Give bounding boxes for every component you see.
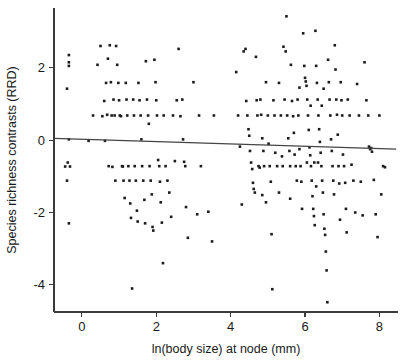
data-point — [350, 163, 353, 166]
x-tick-label: 4 — [227, 319, 234, 334]
y-axis-ticks: 20-2-4 — [33, 60, 54, 292]
data-point — [273, 114, 276, 117]
data-point — [120, 115, 123, 118]
data-point — [179, 115, 182, 118]
data-point — [145, 60, 148, 63]
data-point — [287, 137, 290, 140]
regression-line — [54, 138, 396, 149]
data-point — [96, 64, 99, 67]
data-point — [146, 98, 149, 101]
data-point — [317, 114, 320, 117]
y-tick-label: -4 — [33, 277, 45, 292]
data-point — [111, 166, 114, 169]
data-point — [117, 82, 120, 85]
x-tick-label: 6 — [301, 319, 308, 334]
data-point — [331, 150, 334, 153]
data-point — [278, 82, 281, 85]
data-point — [159, 180, 162, 183]
data-point — [114, 179, 117, 182]
data-point — [259, 98, 262, 101]
data-point — [211, 240, 214, 243]
data-point — [263, 165, 266, 168]
data-point — [261, 194, 264, 197]
data-point — [66, 161, 69, 164]
data-point — [267, 114, 270, 117]
data-point — [112, 98, 115, 101]
data-point — [311, 195, 314, 198]
data-point — [285, 15, 288, 18]
data-point — [175, 99, 178, 102]
x-axis-ticks: 02468 — [78, 312, 383, 334]
data-point — [213, 114, 216, 117]
data-point — [302, 32, 305, 35]
data-point — [298, 86, 301, 89]
data-point — [235, 71, 238, 74]
data-point — [358, 114, 361, 117]
data-point — [336, 113, 339, 116]
data-point — [332, 179, 335, 182]
data-point — [315, 185, 318, 188]
data-point — [272, 99, 275, 102]
data-point — [113, 114, 116, 117]
y-axis-label: Species richness contrasts (RRD) — [5, 66, 19, 254]
data-point — [320, 104, 323, 107]
data-point — [183, 161, 186, 164]
data-point — [327, 58, 330, 61]
data-point — [325, 250, 328, 253]
data-point — [255, 99, 258, 102]
data-point — [246, 114, 249, 117]
data-point — [172, 114, 175, 117]
data-point — [66, 87, 69, 90]
data-point — [242, 50, 245, 53]
data-point — [182, 138, 185, 141]
data-point — [281, 165, 284, 168]
data-point — [317, 161, 320, 164]
data-point — [252, 182, 255, 185]
data-point — [156, 114, 159, 117]
data-point — [290, 64, 293, 67]
data-point — [296, 98, 299, 101]
data-point — [367, 114, 370, 117]
data-point — [376, 236, 379, 239]
data-point — [159, 201, 162, 204]
data-point — [237, 114, 240, 117]
data-point — [320, 165, 323, 168]
data-point — [168, 191, 171, 194]
data-point — [348, 114, 351, 117]
data-point — [250, 161, 253, 164]
scatter-plot-figure: 02468 20-2-4 ln(body size) at node (mm) … — [0, 0, 407, 364]
data-point — [239, 145, 242, 148]
data-point — [138, 99, 141, 102]
data-point — [339, 81, 342, 84]
data-point — [68, 222, 71, 225]
data-point — [270, 233, 273, 236]
data-point — [196, 213, 199, 216]
data-point — [124, 82, 127, 85]
data-point — [261, 137, 264, 140]
data-point — [207, 210, 210, 213]
data-point — [151, 193, 154, 196]
data-point — [135, 179, 138, 182]
data-point — [354, 211, 357, 214]
data-point — [301, 208, 304, 211]
data-point — [288, 150, 291, 153]
data-point — [177, 48, 180, 51]
data-point — [69, 165, 72, 168]
data-point — [340, 99, 343, 102]
data-point — [110, 114, 113, 117]
x-tick-label: 8 — [376, 319, 383, 334]
data-point — [158, 165, 161, 168]
data-point — [184, 165, 187, 168]
data-point — [289, 165, 292, 168]
data-point — [322, 191, 325, 194]
data-point — [309, 154, 312, 157]
data-point — [142, 179, 145, 182]
data-point — [333, 44, 336, 47]
data-point — [282, 45, 285, 48]
data-point — [161, 221, 164, 224]
data-point — [68, 61, 71, 64]
data-point — [304, 80, 307, 83]
x-tick-label: 2 — [153, 319, 160, 334]
data-point — [321, 179, 324, 182]
data-point — [313, 161, 316, 164]
